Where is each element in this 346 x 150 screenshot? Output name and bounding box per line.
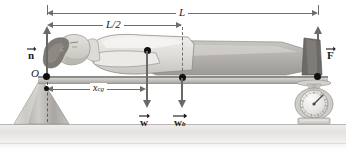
ground-lower-edge <box>0 143 346 144</box>
ground-surface <box>0 124 346 150</box>
scale-force-arrowhead <box>314 26 322 34</box>
pivot-point-dot <box>43 73 50 80</box>
label-scale-force: F <box>327 46 334 62</box>
board-weight-shaft <box>181 78 183 102</box>
label-normal-force-text: n <box>28 50 34 61</box>
scale-contact-dot <box>314 73 321 80</box>
label-x-cg-subscript: cg <box>97 85 104 93</box>
person-weight-arrowhead <box>143 100 151 108</box>
label-x-cg: xcg <box>90 83 107 93</box>
vector-arrow-overbar-n <box>27 46 36 51</box>
normal-force-arrowhead <box>43 26 51 34</box>
board-bottom-edge <box>38 83 328 84</box>
board-weight-arrowhead <box>178 100 186 108</box>
label-person-weight: w <box>140 113 148 129</box>
person-weight-shaft <box>146 51 148 102</box>
dial-scale <box>288 80 340 126</box>
vector-arrow-overbar-F <box>326 46 336 51</box>
label-board-weight-text: wb <box>174 117 185 128</box>
physics-diagram: L L/2 xcg n O F <box>0 0 346 150</box>
label-scale-force-text: F <box>327 50 334 61</box>
label-L: L <box>176 7 188 18</box>
label-board-weight: wb <box>174 113 185 129</box>
vector-arrow-overbar-wb <box>173 113 187 118</box>
pivot-point-O: O <box>31 68 39 79</box>
L2-dashed-drop-line <box>182 27 183 76</box>
label-L-over-2: L/2 <box>103 19 124 30</box>
L-right-arrowhead <box>312 10 318 16</box>
scale-force-shaft <box>317 32 319 78</box>
xcg-origin-dot <box>44 86 49 91</box>
board-weight-subscript: b <box>182 120 186 128</box>
L-left-arrowhead <box>47 10 53 16</box>
vector-arrow-overbar-w <box>139 113 150 118</box>
label-person-weight-text: w <box>140 117 148 128</box>
label-normal-force: n <box>28 46 34 62</box>
normal-force-shaft <box>46 32 48 78</box>
L-right-extension <box>318 5 319 15</box>
